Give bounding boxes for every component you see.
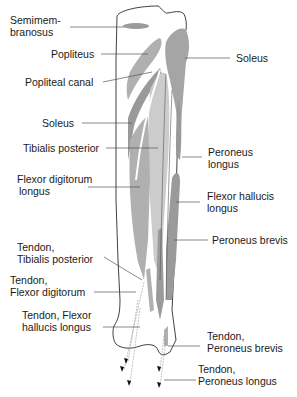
label-tendon-tibialis-posterior: Tendon, Tibialis posterior	[17, 241, 93, 265]
label-line: Tibialis posterior	[17, 253, 93, 265]
label-line: Tendon,	[17, 241, 93, 253]
label-line: Peroneus brevis	[207, 342, 283, 354]
label-soleus-right: Soleus	[236, 52, 268, 64]
label-line: branosus	[10, 26, 61, 38]
label-semimembranosus: Semimem- branosus	[10, 14, 61, 38]
semimembranosus-muscle	[123, 23, 149, 29]
label-line: Tendon, Flexor	[22, 309, 91, 321]
label-line: hallucis longus	[22, 321, 91, 333]
label-line: Popliteus	[51, 48, 94, 60]
label-line: Tibialis posterior	[23, 142, 99, 154]
label-line: Flexor digitorum	[10, 286, 85, 298]
label-tendon-flexor-hallucis-longus: Tendon, Flexor hallucis longus	[22, 309, 91, 333]
label-line: Tendon,	[198, 363, 277, 375]
tendon-arrowheads	[120, 358, 161, 388]
label-popliteal-canal: Popliteal canal	[25, 76, 93, 88]
label-line: longus	[207, 202, 274, 214]
label-line: Peroneus longus	[198, 375, 277, 387]
label-line: longus	[208, 158, 253, 170]
label-flexor-hallucis-longus: Flexor hallucis longus	[207, 190, 274, 214]
label-line: Flexor hallucis	[207, 190, 274, 202]
label-popliteus: Popliteus	[51, 48, 94, 60]
label-peroneus-brevis: Peroneus brevis	[212, 234, 288, 246]
label-line: Peroneus	[208, 146, 253, 158]
label-line: Flexor digitorum	[17, 173, 92, 185]
label-peroneus-longus: Peroneus longus	[208, 146, 253, 170]
label-line: Semimem-	[10, 14, 61, 26]
label-tendon-flexor-digitorum: Tendon, Flexor digitorum	[10, 274, 85, 298]
label-tendon-peroneus-brevis: Tendon, Peroneus brevis	[207, 330, 283, 354]
label-line: Soleus	[236, 52, 268, 64]
label-tibialis-posterior: Tibialis posterior	[23, 142, 99, 154]
label-line: Popliteal canal	[25, 76, 93, 88]
label-line: Peroneus brevis	[212, 234, 288, 246]
label-line: Tendon,	[207, 330, 283, 342]
label-tendon-peroneus-longus: Tendon, Peroneus longus	[198, 363, 277, 387]
label-line: Tendon,	[10, 274, 85, 286]
label-line: Soleus	[42, 117, 74, 129]
label-line: longus	[17, 185, 92, 197]
label-soleus-left: Soleus	[42, 117, 74, 129]
label-flexor-digitorum-longus: Flexor digitorum longus	[17, 173, 92, 197]
